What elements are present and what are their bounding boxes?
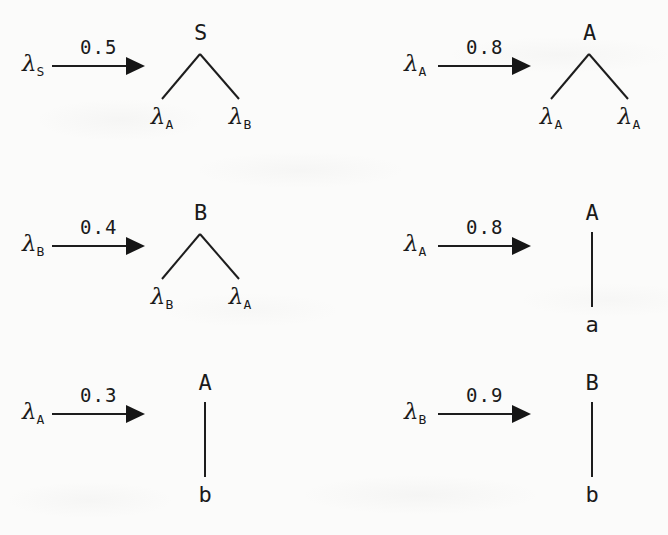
rule-lhs-nonterminal: λA (404, 232, 426, 258)
rule-probability: 0.4 (80, 216, 117, 238)
lambda-icon: λ (22, 50, 37, 76)
arrow-shaft (438, 65, 514, 67)
leaf-subscript: B (165, 297, 173, 312)
rewrite-arrow: 0.8 (438, 220, 533, 254)
rule-lhs-nonterminal: λB (404, 400, 426, 426)
arrow-shaft (438, 413, 514, 415)
tree-leaf: λB (151, 285, 173, 311)
lhs-subscript: A (419, 244, 427, 259)
tree-leaf: λA (229, 285, 251, 311)
derivation-tree: A b (175, 372, 235, 502)
arrow-head-icon (126, 57, 145, 75)
leaf-subscript: A (554, 117, 562, 132)
tree-leaf: λA (151, 105, 173, 131)
rewrite-arrow: 0.9 (438, 388, 533, 422)
lhs-subscript: A (37, 412, 45, 427)
tree-leaf: λA (540, 105, 562, 131)
leaf-subscript: A (243, 297, 251, 312)
lambda-icon: λ (22, 398, 37, 424)
lambda-icon: λ (540, 103, 555, 129)
rule-lhs-nonterminal: λS (22, 52, 44, 78)
tree-leaf: b (585, 484, 598, 506)
arrow-head-icon (126, 405, 145, 423)
rule-probability: 0.8 (466, 36, 503, 58)
rule-probability: 0.9 (466, 384, 503, 406)
leaf-subscript: B (243, 117, 251, 132)
scanned-page: λS 0.5 S λA λB λA 0.8 (0, 0, 668, 535)
leaf-subscript: A (165, 117, 173, 132)
tree-leaf: λB (229, 105, 251, 131)
rule-lhs-nonterminal: λB (22, 232, 44, 258)
tree-leaf: λA (618, 105, 640, 131)
derivation-tree: B λB λA (148, 202, 253, 297)
lambda-icon: λ (229, 103, 244, 129)
rule-probability: 0.8 (466, 216, 503, 238)
rule-lhs-nonterminal: λA (404, 52, 426, 78)
lambda-icon: λ (151, 103, 166, 129)
arrow-shaft (52, 245, 128, 247)
arrow-shaft (52, 413, 128, 415)
lambda-icon: λ (151, 283, 166, 309)
derivation-tree: A a (562, 202, 622, 332)
tree-leaf: b (198, 484, 211, 506)
arrow-head-icon (512, 57, 531, 75)
rewrite-arrow: 0.4 (52, 220, 147, 254)
lambda-icon: λ (404, 230, 419, 256)
lhs-subscript: B (419, 412, 427, 427)
rule-probability: 0.5 (80, 36, 117, 58)
leaf-subscript: A (632, 117, 640, 132)
arrow-head-icon (512, 405, 531, 423)
rewrite-arrow: 0.8 (438, 40, 533, 74)
arrow-head-icon (126, 237, 145, 255)
derivation-tree: S λA λB (148, 22, 253, 117)
rule-lhs-nonterminal: λA (22, 400, 44, 426)
tree-leaf: a (585, 314, 598, 336)
rewrite-arrow: 0.3 (52, 388, 147, 422)
lambda-icon: λ (229, 283, 244, 309)
arrow-head-icon (512, 237, 531, 255)
lambda-icon: λ (22, 230, 37, 256)
derivation-tree: A λA λA (537, 22, 642, 117)
lhs-subscript: A (419, 64, 427, 79)
arrow-shaft (438, 245, 514, 247)
rule-probability: 0.3 (80, 384, 117, 406)
rewrite-arrow: 0.5 (52, 40, 147, 74)
arrow-shaft (52, 65, 128, 67)
derivation-tree: B b (562, 372, 622, 502)
lambda-icon: λ (618, 103, 633, 129)
lhs-subscript: B (37, 244, 45, 259)
lhs-subscript: S (37, 64, 45, 79)
lambda-icon: λ (404, 398, 419, 424)
lambda-icon: λ (404, 50, 419, 76)
